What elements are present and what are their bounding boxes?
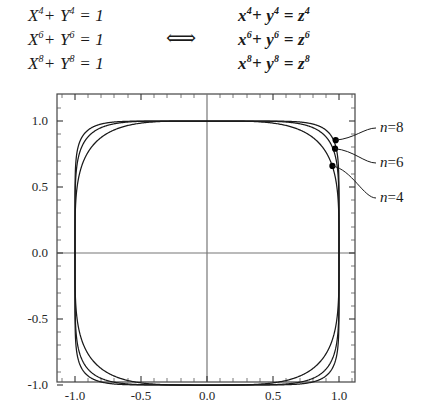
left-eq-3-eqsign: = (79, 54, 91, 73)
right-eq-2-eqsign: = (284, 30, 294, 49)
right-eq-2-exp3: 6 (305, 29, 310, 40)
right-eq-3-exp2: 8 (274, 53, 279, 64)
right-eq-2-exp2: 6 (274, 29, 279, 40)
superellipse-plot: 1.0 0.5 0.0 -0.5 -1.0 -1.0 -0.5 0.0 0.5 … (0, 88, 434, 418)
x-tick-label-2: -0.5 (116, 388, 166, 404)
x-tick-label-4: 0.5 (248, 388, 298, 404)
left-eq-3-base1: X (28, 54, 39, 73)
left-eq-3-base2: Y (60, 54, 70, 73)
right-equation-column: x4+ y4 = z4 x6+ y6 = z6 x8+ y8 = z8 (238, 4, 310, 76)
curve-label-n6-eq: = (388, 154, 396, 170)
right-eq-2-base2: y (266, 30, 274, 49)
right-eq-1-base2: y (266, 6, 274, 25)
right-eq-1-base3: z (298, 6, 305, 25)
left-eq-3-op: + (44, 54, 56, 73)
y-tick-label-1: 1.0 (2, 113, 48, 129)
y-tick-label-4: -0.5 (2, 311, 48, 327)
left-eq-1-eqsign: = (79, 6, 91, 25)
left-equation-row-2: X6+ Y6 = 1 (28, 28, 104, 52)
left-eq-1-exp2: 4 (70, 5, 75, 16)
left-eq-2-rhs: 1 (95, 30, 104, 49)
left-eq-1-rhs: 1 (95, 6, 104, 25)
leader-line-n=8 (336, 128, 376, 140)
left-eq-1-base2: Y (60, 6, 70, 25)
left-eq-2-exp2: 6 (70, 29, 75, 40)
right-eq-3-base2: y (266, 54, 274, 73)
plot-canvas (0, 88, 434, 418)
right-equation-row-1: x4+ y4 = z4 (238, 4, 310, 28)
left-eq-1-base1: X (28, 6, 39, 25)
left-eq-1-op: + (44, 6, 56, 25)
left-equation-column: X4+ Y4 = 1 X6+ Y6 = 1 X8+ Y8 = 1 (28, 4, 104, 76)
x-tick-label-1: -1.0 (50, 388, 100, 404)
y-tick-label-5: -1.0 (2, 377, 48, 393)
right-eq-1-op: + (252, 6, 262, 25)
left-eq-3-exp2: 8 (70, 53, 75, 64)
right-eq-3-base1: x (238, 54, 247, 73)
right-eq-2-base1: x (238, 30, 247, 49)
y-minor-ticks (57, 108, 355, 372)
right-eq-3-eqsign: = (284, 54, 294, 73)
y-tick-label-3: 0.0 (2, 245, 48, 261)
left-eq-2-base1: X (28, 30, 39, 49)
curve-label-n6-value: 6 (396, 154, 404, 170)
curve-label-n8: n=8 (380, 119, 403, 136)
marker-n=4 (329, 163, 335, 169)
equivalence-arrow-icon: ⟺ (166, 26, 196, 50)
equation-block: X4+ Y4 = 1 X6+ Y6 = 1 X8+ Y8 = 1 ⟺ x4+ y… (0, 0, 434, 88)
left-equation-row-3: X8+ Y8 = 1 (28, 52, 104, 76)
right-eq-2-op: + (252, 30, 262, 49)
curve-label-n8-value: 8 (396, 119, 404, 135)
curve-label-n4-var: n (380, 189, 388, 205)
curve-label-n8-eq: = (388, 119, 396, 135)
right-equation-row-2: x6+ y6 = z6 (238, 28, 310, 52)
curve-label-n6-var: n (380, 154, 388, 170)
x-tick-label-5: 1.0 (314, 388, 364, 404)
x-tick-label-3: 0.0 (182, 388, 232, 404)
right-eq-1-base1: x (238, 6, 247, 25)
left-eq-3-rhs: 1 (95, 54, 104, 73)
left-eq-2-eqsign: = (79, 30, 91, 49)
left-equation-row-1: X4+ Y4 = 1 (28, 4, 104, 28)
left-eq-2-base2: Y (60, 30, 70, 49)
curve-label-n6: n=6 (380, 154, 403, 171)
right-equation-row-3: x8+ y8 = z8 (238, 52, 310, 76)
right-eq-1-eqsign: = (284, 6, 294, 25)
curve-label-n8-var: n (380, 119, 388, 135)
y-tick-label-2: 0.5 (2, 179, 48, 195)
right-eq-1-exp3: 4 (305, 5, 310, 16)
left-eq-2-op: + (44, 30, 56, 49)
right-eq-3-base3: z (298, 54, 305, 73)
curve-label-n4-eq: = (388, 189, 396, 205)
right-eq-3-op: + (252, 54, 262, 73)
curve-label-n4-value: 4 (396, 189, 404, 205)
right-eq-2-base3: z (298, 30, 305, 49)
right-eq-3-exp3: 8 (305, 53, 310, 64)
right-eq-1-exp2: 4 (274, 5, 279, 16)
curve-label-n4: n=4 (380, 189, 403, 206)
